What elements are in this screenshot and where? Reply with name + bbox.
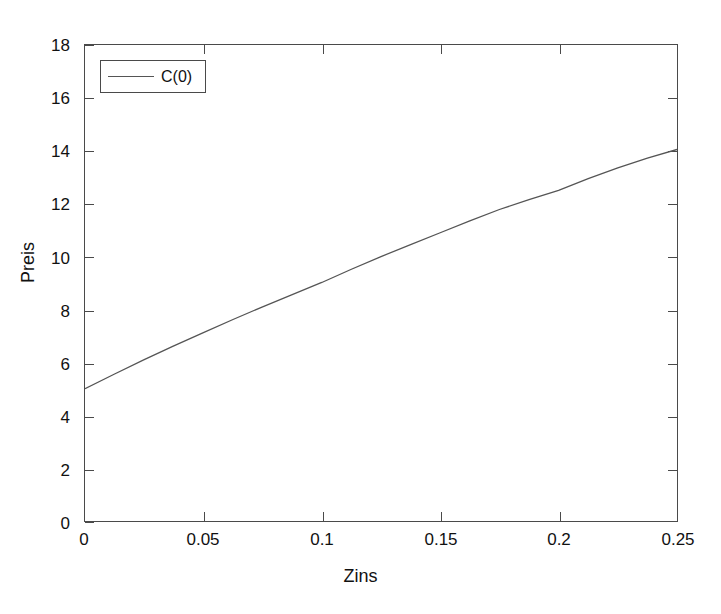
- y-tick-mark: [85, 522, 94, 523]
- y-tick-label: 2: [61, 462, 70, 479]
- chart-legend[interactable]: C(0): [100, 60, 206, 93]
- y-tick-label: 14: [51, 143, 70, 160]
- plot-area: [84, 44, 678, 522]
- x-axis-title: Zins: [0, 566, 721, 587]
- y-tick-label: 6: [61, 356, 70, 373]
- y-tick-label: 18: [51, 37, 70, 54]
- x-tick-label: 0: [79, 531, 88, 548]
- chart-figure: 18 16 14 12 10 8 6 4 2 0 0 0.05 0.1 0.15…: [0, 0, 721, 614]
- y-tick-label: 8: [61, 303, 70, 320]
- x-tick-label: 0.1: [310, 531, 334, 548]
- y-tick-label: 12: [51, 196, 70, 213]
- y-axis-title: Preis: [18, 242, 39, 283]
- x-tick-label: 0.2: [547, 531, 571, 548]
- y-tick-label: 0: [61, 515, 70, 532]
- x-tick-label: 0.15: [424, 531, 457, 548]
- curve-svg: [85, 45, 677, 521]
- data-series-c0: [85, 149, 677, 388]
- legend-label: C(0): [161, 69, 192, 85]
- legend-line-sample: [108, 76, 154, 77]
- y-tick-label: 10: [51, 250, 70, 267]
- y-tick-label: 16: [51, 90, 70, 107]
- y-tick-label: 4: [61, 409, 70, 426]
- x-tick-label: 0.25: [661, 531, 694, 548]
- x-tick-label: 0.05: [186, 531, 219, 548]
